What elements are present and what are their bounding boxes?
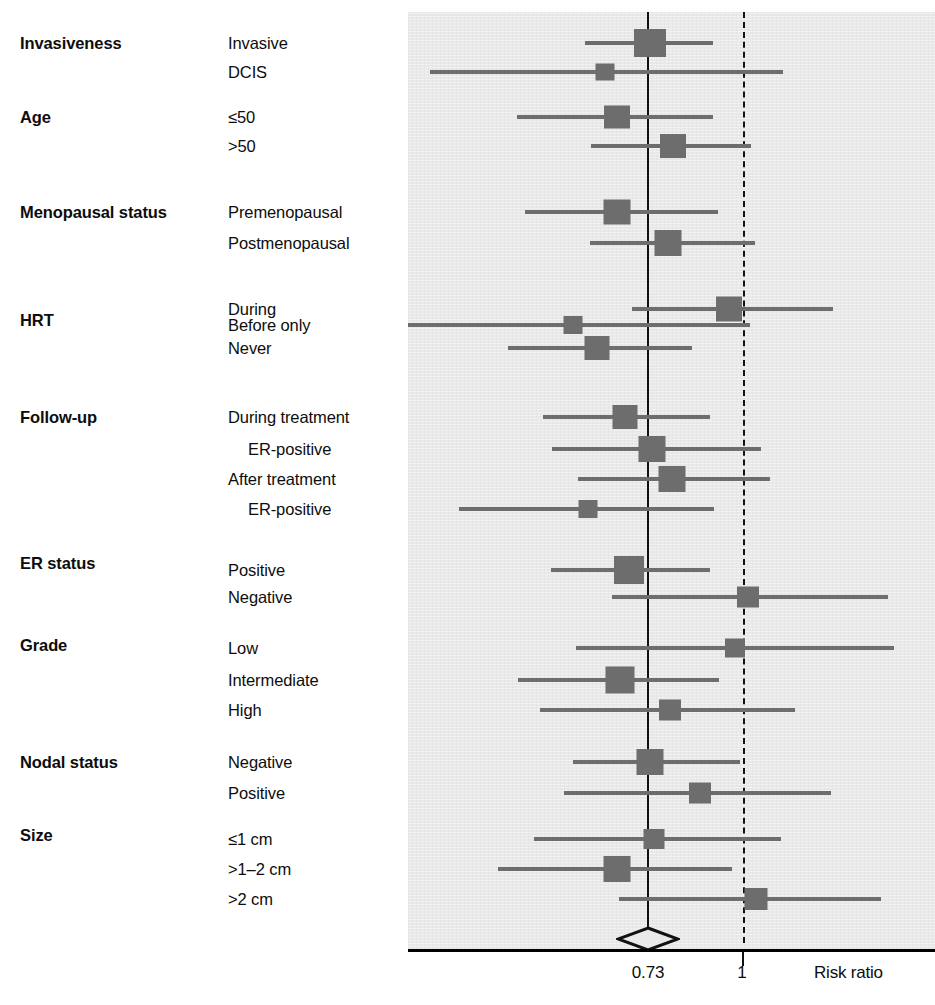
row-label-17: High xyxy=(228,701,262,720)
point-estimate-box-20 xyxy=(644,829,665,849)
point-estimate-box-6 xyxy=(716,297,742,322)
point-estimate-box-21 xyxy=(604,856,631,882)
point-estimate-box-4 xyxy=(604,200,631,225)
point-estimate-box-11 xyxy=(659,466,686,492)
row-label-0: Invasive xyxy=(228,34,288,53)
row-label-4: Premenopausal xyxy=(228,203,342,222)
forest-plot-figure: InvasivenessInvasiveDCISAge≤50>50Menopau… xyxy=(0,0,935,1005)
point-estimate-box-12 xyxy=(579,500,598,518)
row-label-8: Never xyxy=(228,339,272,358)
point-estimate-box-16 xyxy=(606,667,635,694)
group-label-size: Size xyxy=(20,826,53,845)
point-estimate-box-22 xyxy=(745,888,768,910)
x-axis-line xyxy=(408,949,935,952)
point-estimate-box-1 xyxy=(596,64,615,81)
point-estimate-box-17 xyxy=(659,700,681,721)
x-axis-title: Risk ratio xyxy=(814,963,883,983)
point-estimate-box-13 xyxy=(614,556,644,584)
x-tick-label-073: 0.73 xyxy=(632,963,664,983)
point-estimate-box-15 xyxy=(725,639,745,658)
point-estimate-box-0 xyxy=(634,29,666,57)
x-tick-label-1: 1 xyxy=(737,963,746,983)
group-label-menopausal-status: Menopausal status xyxy=(20,203,167,222)
point-estimate-box-8 xyxy=(585,336,610,360)
row-label-13: Positive xyxy=(228,561,285,580)
row-label-14: Negative xyxy=(228,588,292,607)
point-estimate-box-3 xyxy=(660,134,686,158)
group-label-follow-up: Follow-up xyxy=(20,408,97,427)
row-label-10: ER-positive xyxy=(248,440,331,459)
row-label-18: Negative xyxy=(228,753,292,772)
point-estimate-box-10 xyxy=(639,436,666,462)
group-label-age: Age xyxy=(20,108,51,127)
group-label-nodal-status: Nodal status xyxy=(20,753,118,772)
row-label-16: Intermediate xyxy=(228,671,319,690)
row-label-7: Before only xyxy=(228,316,310,335)
row-label-11: After treatment xyxy=(228,470,336,489)
group-label-hrt: HRT xyxy=(20,311,54,330)
row-label-19: Positive xyxy=(228,784,285,803)
point-estimate-box-9 xyxy=(613,405,638,429)
row-label-5: Postmenopausal xyxy=(228,234,350,253)
group-label-grade: Grade xyxy=(20,636,67,655)
point-estimate-box-14 xyxy=(737,587,759,608)
point-estimate-box-19 xyxy=(689,783,711,804)
row-label-3: >50 xyxy=(228,137,256,156)
row-label-21: >1–2 cm xyxy=(228,860,291,879)
point-estimate-box-7 xyxy=(564,316,583,334)
point-estimate-box-2 xyxy=(604,106,630,129)
row-label-20: ≤1 cm xyxy=(228,830,272,849)
group-label-invasiveness: Invasiveness xyxy=(20,34,122,53)
row-label-12: ER-positive xyxy=(248,500,331,519)
row-label-9: During treatment xyxy=(228,408,349,427)
row-label-1: DCIS xyxy=(228,63,267,82)
row-label-2: ≤50 xyxy=(228,108,255,127)
row-label-22: >2 cm xyxy=(228,890,273,909)
group-label-er-status: ER status xyxy=(20,554,95,573)
point-estimate-box-18 xyxy=(637,749,664,775)
point-estimate-box-5 xyxy=(655,230,682,256)
row-label-15: Low xyxy=(228,639,258,658)
